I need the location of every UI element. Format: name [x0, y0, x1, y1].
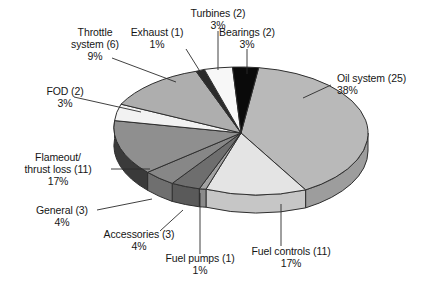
- label-oil-system: Oil system (25) 38%: [337, 72, 406, 96]
- label-oil-system-name: Oil system (25): [337, 72, 406, 84]
- leader-line-exhaust: [186, 49, 201, 73]
- label-general: General (3) 4%: [36, 204, 88, 228]
- label-throttle-system: Throttle system (6) 9%: [71, 26, 119, 63]
- leader-line-throttle: [112, 58, 176, 82]
- label-throttle-system-name-1: Throttle: [78, 26, 113, 38]
- label-flameout-name-2: thrust loss (11): [24, 163, 91, 175]
- label-accessories-percent: 4%: [104, 240, 175, 252]
- label-accessories: Accessories (3) 4%: [104, 228, 175, 252]
- label-exhaust: Exhaust (1) 1%: [131, 26, 184, 50]
- label-fuel-controls: Fuel controls (11) 17%: [251, 245, 330, 269]
- label-throttle-system-name-2: system (6): [71, 38, 119, 50]
- pie-chart-figure: Turbines (2) 3% Bearings (2) 3% Exhaust …: [0, 0, 424, 285]
- label-oil-system-percent: 38%: [337, 84, 406, 96]
- label-bearings-percent: 3%: [219, 38, 275, 50]
- label-fod-percent: 3%: [46, 97, 83, 109]
- label-exhaust-name: Exhaust (1): [131, 26, 184, 38]
- pie-chart-canvas: [0, 0, 424, 285]
- label-fuel-pumps-percent: 1%: [165, 264, 234, 276]
- label-general-name: General (3): [36, 204, 88, 216]
- label-turbines-name: Turbines (2): [190, 7, 245, 19]
- label-fuel-pumps-name: Fuel pumps (1): [165, 252, 234, 264]
- label-exhaust-percent: 1%: [131, 38, 184, 50]
- label-flameout-thrust-loss: Flameout/ thrust loss (11) 17%: [24, 151, 91, 188]
- label-fod-name: FOD (2): [46, 85, 83, 97]
- label-flameout-name-1: Flameout/: [35, 151, 81, 163]
- label-fuel-pumps: Fuel pumps (1) 1%: [165, 252, 234, 276]
- label-bearings: Bearings (2) 3%: [219, 26, 275, 50]
- label-bearings-name: Bearings (2): [219, 26, 275, 38]
- label-fod: FOD (2) 3%: [46, 85, 83, 109]
- leader-line-general: [97, 199, 152, 210]
- label-flameout-percent: 17%: [24, 175, 91, 187]
- label-fuel-controls-percent: 17%: [251, 257, 330, 269]
- label-throttle-system-percent: 9%: [71, 50, 119, 62]
- label-general-percent: 4%: [36, 216, 88, 228]
- label-accessories-name: Accessories (3): [104, 228, 175, 240]
- label-fuel-controls-name: Fuel controls (11): [251, 245, 330, 257]
